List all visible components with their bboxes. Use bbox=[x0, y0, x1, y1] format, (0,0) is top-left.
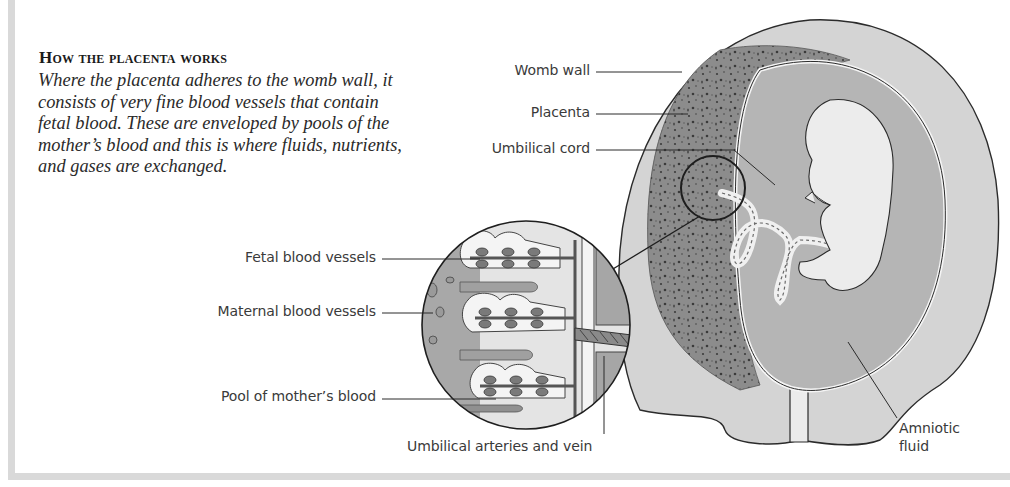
label-fetal-blood-vessels: Fetal blood vessels bbox=[180, 249, 376, 265]
label-placenta: Placenta bbox=[472, 104, 590, 120]
womb-illustration bbox=[619, 20, 999, 445]
label-umbilical-arteries-and-vein: Umbilical arteries and vein bbox=[407, 438, 592, 454]
label-amniotic-fluid-line2: fluid bbox=[899, 438, 929, 454]
label-pool-of-mothers-blood: Pool of mother’s blood bbox=[160, 388, 376, 404]
label-umbilical-cord: Umbilical cord bbox=[440, 140, 590, 156]
label-amniotic-fluid-line1: Amniotic bbox=[899, 420, 960, 436]
label-maternal-blood-vessels: Maternal blood vessels bbox=[160, 303, 376, 319]
label-womb-wall: Womb wall bbox=[472, 62, 590, 78]
magnified-detail bbox=[420, 220, 640, 442]
